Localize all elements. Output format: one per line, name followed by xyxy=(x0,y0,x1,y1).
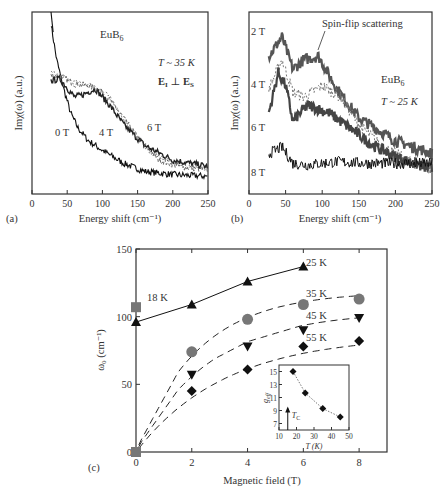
series-4t xyxy=(51,74,207,172)
marker-triangle-down xyxy=(187,371,197,380)
panel-b-letter: (b) xyxy=(231,213,244,225)
panel-a-polarization: EI ⊥ ES xyxy=(158,76,194,89)
label-25k: 25 K xyxy=(306,257,327,268)
marker-diamond xyxy=(354,336,364,346)
marker-square xyxy=(131,302,141,312)
panel-b-title: EuB6 xyxy=(381,73,405,88)
x-tick-label: 0 xyxy=(133,457,138,468)
x-tick-label: 250 xyxy=(201,198,216,209)
panel-c-xlabel: Magnetic field (T) xyxy=(223,475,301,487)
x-tick-label: 8 xyxy=(356,457,361,468)
inset-ylabel: geff xyxy=(261,392,271,403)
x-tick-label: 0 xyxy=(247,198,252,209)
label-18k: 18 K xyxy=(147,292,168,303)
label-55k: 55 K xyxy=(306,332,327,343)
label-6t: 6 T xyxy=(147,122,162,133)
spin-flip-label: Spin-flip scattering xyxy=(322,18,404,29)
marker-circle xyxy=(298,299,309,310)
marker-triangle-down xyxy=(243,342,253,351)
panel-b-temp: T ~ 25 K xyxy=(381,96,419,107)
x-tick-label: 250 xyxy=(425,198,440,209)
label-6t: 6 T xyxy=(251,122,266,133)
x-tick-label: 100 xyxy=(315,198,330,209)
marker-circle xyxy=(242,314,253,325)
panel-b-ylabel: Imχ(ω) (a.u.) xyxy=(229,75,241,131)
panel-a-title: EuB6 xyxy=(100,28,124,43)
label-2t: 2 T xyxy=(251,26,266,37)
x-tick-label: 6 xyxy=(301,457,306,468)
y-tick-label: 100 xyxy=(116,312,132,323)
panel-a-letter: (a) xyxy=(6,213,18,225)
marker-circle xyxy=(354,294,365,305)
marker-diamond xyxy=(243,364,253,374)
series-0t xyxy=(51,27,207,179)
label-35k: 35 K xyxy=(306,288,327,299)
x-tick-label: 4 xyxy=(245,457,251,468)
label-45k: 45 K xyxy=(306,310,327,321)
series-8t xyxy=(269,142,432,170)
x-tick-label: 150 xyxy=(130,198,145,209)
y-tick-label: 150 xyxy=(116,244,132,255)
x-tick-label: 2 xyxy=(189,457,194,468)
series-6t xyxy=(269,67,432,172)
marker-triangle-up xyxy=(187,299,197,308)
x-tick-label: 50 xyxy=(62,198,72,209)
inset-y-tick: 9 xyxy=(273,407,277,416)
x-tick-label: 150 xyxy=(351,198,366,209)
inset-axes xyxy=(279,365,349,430)
x-tick-label: 200 xyxy=(165,198,180,209)
marker-diamond xyxy=(187,386,197,396)
inset-y-tick: 13 xyxy=(270,381,278,390)
x-tick-label: 100 xyxy=(95,198,110,209)
x-tick-label: 0 xyxy=(30,198,35,209)
inset-x-tick: 30 xyxy=(310,432,318,441)
y-tick-label: 50 xyxy=(122,379,133,390)
panel-a-xlabel: Energy shift (cm⁻¹) xyxy=(79,213,162,225)
inset-xlabel: T (K) xyxy=(306,442,323,451)
panel-b-xlabel: Energy shift (cm⁻¹) xyxy=(299,213,382,225)
label-8t: 8 T xyxy=(251,167,266,178)
label-4t: 4 T xyxy=(99,127,114,138)
panel-c-letter: (c) xyxy=(88,462,100,474)
panel-c-ylabel: ω₀ (cm⁻¹) xyxy=(95,329,107,371)
inset-y-tick: 7 xyxy=(273,420,277,429)
marker-triangle-up xyxy=(131,317,141,326)
marker-circle xyxy=(186,346,197,357)
label-0t: 0 T xyxy=(55,127,70,138)
inset-x-tick: 40 xyxy=(328,432,336,441)
x-tick-label: 200 xyxy=(388,198,403,209)
panel-a-temp: T ~ 35 K xyxy=(158,57,196,68)
inset-x-tick: 10 xyxy=(275,432,283,441)
x-tick-label: 50 xyxy=(281,198,291,209)
figure: 050100150200250EuB6T ~ 35 KEI ⊥ ES0 T4 T… xyxy=(0,0,448,496)
label-4t: 4 T xyxy=(251,79,266,90)
inset-x-tick: 50 xyxy=(345,432,353,441)
inset-y-tick: 15 xyxy=(270,368,278,377)
panel-a-ylabel: Imχ(ω) (a.u.) xyxy=(13,75,25,131)
inset-x-tick: 20 xyxy=(293,432,301,441)
marker-square xyxy=(131,447,141,457)
